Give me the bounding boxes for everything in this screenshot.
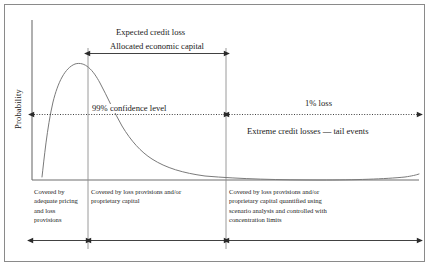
- credit-loss-distribution-figure: Probability Expected credit loss Allocat…: [0, 0, 430, 267]
- allocated-economic-capital-label: Allocated economic capital: [108, 42, 206, 51]
- confidence-level-label: 99% confidence level: [90, 104, 168, 113]
- extreme-credit-losses-label: Extreme credit losses — tail events: [247, 127, 368, 136]
- band-note-adequate-pricing: Covered by adequate pricing and loss pro…: [34, 187, 86, 224]
- expected-credit-loss-label: Expected credit loss: [116, 28, 185, 37]
- y-axis-label: Probability: [13, 74, 23, 144]
- loss-distribution-curve: [42, 63, 419, 180]
- band-note-loss-provisions: Covered by loss provisions and/or propri…: [91, 187, 223, 206]
- one-percent-loss-label: 1% loss: [303, 99, 334, 108]
- band-note-scenario-analysis: Covered by loss provisions and/or propri…: [229, 187, 379, 224]
